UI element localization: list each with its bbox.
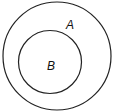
- set-a-label: A: [65, 18, 74, 32]
- set-b-label: B: [47, 59, 55, 73]
- venn-diagram: A B: [0, 0, 113, 112]
